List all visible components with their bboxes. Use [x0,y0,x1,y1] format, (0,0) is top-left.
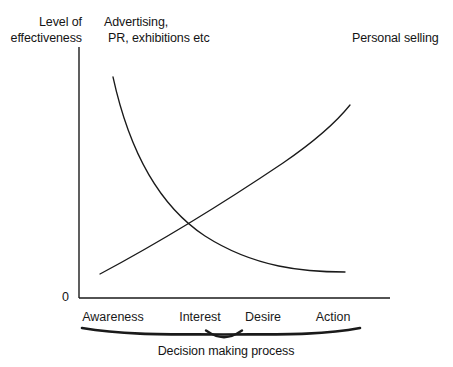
stage-label-awareness: Awareness [82,310,144,324]
stage-label-desire: Desire [245,310,281,324]
y-axis-label-line1: Level of [39,15,82,29]
advertising-curve [113,77,345,272]
advertising-curve-label: Advertising, PR, exhibitions etc [104,14,210,46]
origin-label: 0 [62,289,69,305]
personal-selling-curve [100,105,350,274]
decision-making-process-label: Decision making process [158,343,295,359]
stage-label-action: Action [316,310,351,324]
advertising-curve-label-line1: Advertising, [104,15,168,29]
personal-selling-curve-label: Personal selling [352,30,439,46]
effectiveness-vs-decision-stage-diagram: Level of effectiveness Advertising, PR, … [0,0,453,367]
advertising-curve-label-line2: PR, exhibitions etc [104,30,210,46]
decision-process-brace [82,328,360,335]
y-axis-label-line2: effectiveness [11,30,82,46]
y-axis-label: Level of effectiveness [11,14,82,46]
stage-label-interest: Interest [179,310,221,324]
diagram-canvas [0,0,453,367]
